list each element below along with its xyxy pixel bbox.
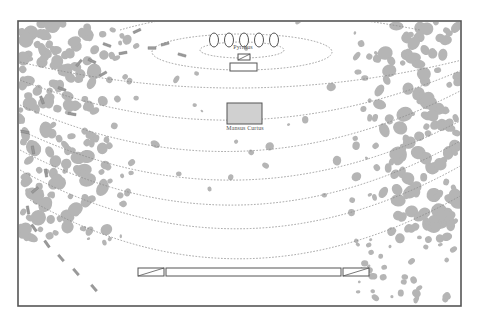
terrain-blob — [357, 280, 361, 284]
terrain-blob — [120, 234, 122, 238]
terrain-blob — [361, 75, 369, 81]
terrain-blob — [414, 131, 424, 141]
elephant-oval — [225, 33, 234, 47]
terrain-blob — [98, 50, 109, 61]
terrain-blob — [87, 237, 91, 240]
terrain-blob — [388, 244, 392, 248]
terrain-blob — [352, 51, 362, 62]
terrain-blob — [67, 133, 76, 140]
terrain-blob — [437, 243, 443, 247]
terrain-blob — [128, 170, 134, 175]
terrain-blob — [302, 116, 309, 124]
terrain-blob — [394, 104, 416, 124]
terrain-blob — [200, 109, 204, 113]
terrain-blob — [133, 95, 139, 100]
terrain-blob — [192, 103, 197, 108]
terrain-blob — [22, 154, 35, 166]
terrain-blob — [132, 42, 140, 50]
terrain-blob — [46, 214, 56, 224]
terrain-blob — [432, 18, 440, 26]
terrain-blob — [116, 191, 124, 199]
terrain-blob — [443, 257, 450, 264]
terrain-blob — [398, 289, 404, 297]
terrain-blob — [372, 98, 388, 111]
terrain-blob — [326, 82, 337, 92]
terrain-blob — [417, 236, 422, 240]
terrain-blob — [113, 94, 122, 103]
terrain-blob — [370, 293, 380, 302]
marching-unit — [133, 28, 141, 34]
marching-unit — [178, 53, 186, 57]
terrain-blob — [353, 31, 356, 35]
terrain-blob — [437, 48, 448, 61]
elephant-oval — [210, 33, 219, 47]
terrain-blob — [109, 27, 117, 34]
mansus-curtus-box — [227, 103, 262, 124]
terrain-blob — [127, 158, 137, 167]
terrain-blob — [376, 185, 390, 200]
terrain-blob — [424, 129, 433, 138]
terrain-blob — [194, 71, 200, 76]
terrain-blob — [372, 163, 381, 172]
terrain-blob — [409, 275, 418, 284]
terrain-blob — [37, 226, 45, 234]
terrain-blob — [233, 139, 239, 145]
terrain-blob — [322, 193, 328, 198]
terrain-blob — [247, 149, 255, 156]
marching-unit — [148, 47, 156, 49]
terrain-blob — [264, 141, 276, 153]
terrain-blob — [367, 192, 373, 197]
terrain-blob — [354, 69, 362, 75]
terrain-blob — [287, 123, 291, 126]
marching-unit — [73, 268, 80, 276]
terrain-blob — [422, 122, 431, 131]
terrain-blob — [371, 141, 380, 150]
reserve-box — [230, 63, 257, 71]
terrain-blob — [60, 97, 77, 114]
terrain-blob — [390, 295, 393, 298]
elephant-oval — [270, 33, 279, 47]
terrain-blob — [424, 235, 433, 244]
terrain-blob — [407, 257, 416, 266]
terrain-blob — [379, 273, 387, 281]
marching-unit — [119, 51, 127, 55]
terrain-blob — [391, 119, 410, 137]
terrain-blob — [372, 83, 386, 98]
terrain-blob — [110, 122, 119, 131]
terrain-blob — [367, 114, 373, 122]
terrain-blob — [101, 239, 107, 246]
terrain-blob — [367, 98, 373, 104]
terrain-blob — [400, 279, 407, 285]
terrain-blob — [149, 139, 161, 150]
marching-unit — [91, 284, 98, 292]
terrain-blob — [118, 40, 122, 45]
terrain-blob — [368, 273, 377, 280]
terrain-blob — [35, 166, 44, 175]
marching-unit — [26, 206, 30, 214]
terrain-blob — [365, 242, 372, 249]
terrain-blob — [368, 249, 375, 255]
terrain-blob — [88, 43, 101, 56]
terrain-blob — [17, 64, 27, 74]
terrain-blob — [357, 39, 366, 48]
label-mansus-curtus: Mansus Curtus — [226, 125, 263, 131]
terrain-blob — [352, 141, 361, 151]
terrain-blob — [333, 156, 342, 166]
marching-unit — [68, 112, 76, 116]
terrain-blob — [369, 238, 373, 242]
terrain-blob — [97, 143, 108, 155]
terrain-blob — [172, 75, 181, 85]
roman-line-middle-block — [166, 268, 341, 276]
terrain-blob — [50, 192, 55, 199]
terrain-blob — [402, 82, 413, 95]
marching-unit — [58, 254, 65, 262]
battle-diagram: Pyrrhus Mansus Curtus — [0, 0, 482, 319]
terrain-blob — [176, 172, 182, 177]
terrain-blob — [401, 274, 409, 281]
terrain-blob — [381, 264, 388, 270]
terrain-blob — [384, 113, 395, 124]
terrain-blob — [378, 254, 383, 259]
terrain-blob — [294, 19, 301, 26]
terrain-blob — [445, 81, 453, 89]
terrain-blob — [395, 233, 406, 244]
